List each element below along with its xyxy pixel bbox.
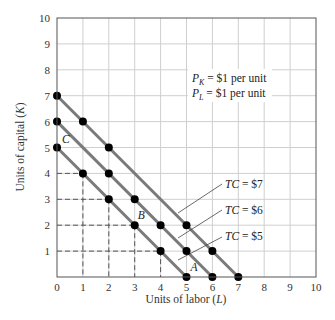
y-tick-label: 7	[45, 90, 51, 102]
point-label-c: C	[62, 133, 70, 145]
y-tick-label: 5	[45, 142, 51, 154]
x-tick-label: 6	[210, 281, 216, 293]
y-tick-label: 9	[45, 38, 51, 50]
x-tick-label: 2	[106, 281, 112, 293]
x-axis-label: Units of labor (L)	[146, 293, 227, 306]
leader-line	[178, 184, 222, 213]
y-tick-label: 4	[45, 167, 51, 179]
isocost-line	[57, 148, 187, 278]
y-tick-label: 8	[45, 64, 51, 76]
point-label-b: B	[138, 209, 145, 221]
x-tick-label: 0	[54, 281, 60, 293]
x-tick-label: 10	[311, 281, 323, 293]
x-tick-label: 3	[132, 281, 138, 293]
data-point	[183, 221, 191, 229]
x-axis-ticks: 012345678910	[54, 281, 322, 293]
x-tick-label: 9	[287, 281, 293, 293]
series-label: TC = $5	[225, 230, 263, 242]
y-tick-label: 10	[39, 12, 51, 24]
y-tick-label: 2	[45, 219, 51, 231]
y-tick-label: 6	[45, 116, 51, 128]
y-axis-ticks: 12345678910	[39, 12, 51, 257]
data-point	[105, 195, 113, 203]
y-tick-label: 1	[45, 245, 51, 257]
x-tick-label: 5	[184, 281, 190, 293]
series-label: TC = $6	[225, 204, 263, 216]
data-point	[157, 247, 165, 255]
isocost-chart: 012345678910 12345678910 TC = $7TC = $6T…	[0, 0, 335, 320]
x-tick-label: 4	[158, 281, 164, 293]
x-tick-label: 8	[261, 281, 267, 293]
data-point	[208, 247, 216, 255]
data-point	[131, 221, 139, 229]
data-point	[105, 144, 113, 152]
x-tick-label: 1	[80, 281, 86, 293]
data-point	[131, 195, 139, 203]
x-tick-label: 7	[236, 281, 242, 293]
grid-lines	[57, 18, 316, 277]
series-labels: TC = $7TC = $6TC = $5	[225, 178, 263, 242]
data-point	[105, 169, 113, 177]
data-point	[79, 118, 87, 126]
data-point	[79, 169, 87, 177]
data-point	[183, 247, 191, 255]
data-point	[157, 221, 165, 229]
series-label: TC = $7	[225, 178, 263, 190]
y-tick-label: 3	[45, 193, 51, 205]
y-axis-label: Units of capital (K)	[14, 102, 27, 191]
point-label-a: A	[190, 261, 199, 273]
